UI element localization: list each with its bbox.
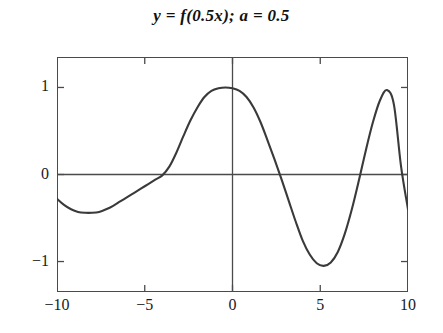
axis-lines xyxy=(57,57,408,292)
y-tick-label: 1 xyxy=(15,77,49,95)
y-tick-label: 0 xyxy=(15,165,49,183)
chart-figure: y = f(0.5x); a = 0.5 −10−50510 10−1 xyxy=(0,0,443,333)
x-tick-label: 0 xyxy=(210,296,256,314)
x-tick-label: 10 xyxy=(385,296,431,314)
x-tick-label: 5 xyxy=(297,296,343,314)
page-title: y = f(0.5x); a = 0.5 xyxy=(0,6,443,26)
plot-area xyxy=(57,57,408,292)
x-tick-label: −5 xyxy=(122,296,168,314)
x-tick-label: −10 xyxy=(34,296,80,314)
y-tick-label: −1 xyxy=(15,252,49,270)
plot-canvas xyxy=(57,57,408,292)
